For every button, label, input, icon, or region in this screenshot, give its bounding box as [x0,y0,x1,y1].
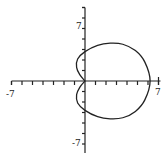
polar-plot [0,0,167,153]
y-min-label: -7 [72,139,81,148]
x-min-label: -7 [6,90,15,99]
y-max-label: 7 [76,22,82,31]
axes [12,8,161,154]
x-max-label: 7 [155,88,161,97]
